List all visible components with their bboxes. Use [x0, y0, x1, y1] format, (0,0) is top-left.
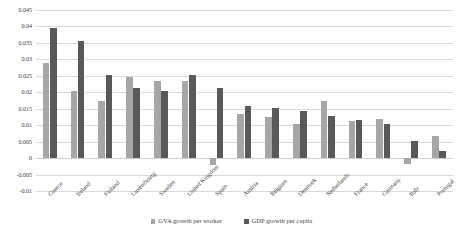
bar [245, 106, 252, 158]
bar [265, 117, 272, 158]
bar [182, 81, 189, 158]
bar [356, 120, 363, 158]
bar-group [370, 10, 398, 191]
y-axis-tick-label: 0.025 [0, 73, 32, 79]
bar-group [175, 10, 203, 191]
chart-legend: GVA growth per worker GDP growth per cap… [0, 218, 463, 225]
bar [133, 88, 140, 158]
legend-label-gva: GVA growth per worker [158, 218, 222, 225]
legend-swatch-gva-icon [151, 219, 156, 224]
y-axis-tick-label: -0.01 [0, 188, 32, 194]
bar [404, 158, 411, 164]
legend-item-gdp[interactable]: GDP growth per capita [244, 218, 312, 225]
bar-group [342, 10, 370, 191]
bar-group [36, 10, 64, 191]
bar [272, 108, 279, 158]
bar [217, 88, 224, 158]
bar [300, 111, 307, 158]
bar-group [92, 10, 120, 191]
bar-group [231, 10, 259, 191]
y-axis-tick-label: -0.005 [0, 171, 32, 177]
bar-group [286, 10, 314, 191]
plot-area [36, 10, 453, 191]
bar-group [425, 10, 453, 191]
bar [126, 77, 133, 158]
bar [349, 121, 356, 158]
y-axis-tick-label: 0.035 [0, 40, 32, 46]
bar [384, 124, 391, 159]
y-axis-tick-label: 0.01 [0, 122, 32, 128]
y-axis-tick-label: 0.005 [0, 139, 32, 145]
bar-group [258, 10, 286, 191]
bar [106, 75, 113, 158]
y-axis-tick-label: 0.045 [0, 7, 32, 13]
bar [321, 101, 328, 159]
legend-label-gdp: GDP growth per capita [252, 218, 313, 225]
bar [189, 75, 196, 158]
bar [43, 63, 50, 158]
bar-group [397, 10, 425, 191]
bar [50, 28, 57, 158]
bar-group [314, 10, 342, 191]
bar [237, 114, 244, 158]
bar [98, 101, 105, 159]
y-axis-tick-label: 0.015 [0, 106, 32, 112]
bar-group [147, 10, 175, 191]
bar-group [119, 10, 147, 191]
bar [376, 119, 383, 158]
bar-series-container [36, 10, 453, 191]
legend-swatch-gdp-icon [244, 219, 249, 224]
y-axis-tick-label: 0.04 [0, 23, 32, 29]
bar [439, 151, 446, 158]
bar [328, 116, 335, 158]
bar [71, 91, 78, 158]
bar [78, 41, 85, 158]
bar [411, 141, 418, 158]
bar [293, 124, 300, 159]
bar-group [64, 10, 92, 191]
y-axis-tick-label: 0 [0, 155, 32, 161]
y-axis-tick-label: 0.02 [0, 89, 32, 95]
legend-item-gva[interactable]: GVA growth per worker [151, 218, 222, 225]
y-axis-tick-label: 0.03 [0, 56, 32, 62]
bar [432, 136, 439, 158]
bar [161, 91, 168, 158]
bar-chart: 0.0450.040.0350.030.0250.020.0150.010.00… [0, 0, 463, 233]
bar [154, 81, 161, 158]
